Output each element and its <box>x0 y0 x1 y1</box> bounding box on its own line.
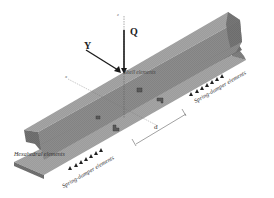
force-y-label: Y <box>84 40 91 51</box>
x-axis-label: x <box>65 74 67 79</box>
hexahedral-elements-label: Hexahedral elements <box>14 151 65 157</box>
rail-web-front <box>40 42 242 160</box>
force-q-label: Q <box>130 26 138 37</box>
spacing-d-label: d <box>154 123 158 131</box>
z-axis-label: z <box>117 12 119 17</box>
shell-elements-label: Shell elements <box>124 69 156 75</box>
force-q-arrow <box>121 30 127 74</box>
force-y-arrow <box>86 50 121 73</box>
